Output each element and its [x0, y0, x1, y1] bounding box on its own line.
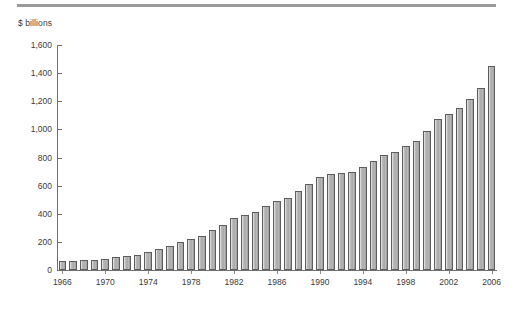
x-axis-tick-label: 1978 — [171, 277, 211, 287]
bar — [391, 152, 399, 270]
bar — [123, 256, 131, 270]
bar — [262, 206, 270, 270]
y-axis-tick-mark — [57, 186, 62, 187]
bar — [316, 177, 324, 270]
y-axis-tick-label: 1,600 — [14, 40, 52, 50]
x-axis-tick-label: 1986 — [257, 277, 297, 287]
y-axis-tick-mark — [57, 45, 62, 46]
bar — [423, 131, 431, 270]
bar — [327, 174, 335, 270]
bar — [273, 201, 281, 270]
bar — [80, 260, 88, 270]
bar — [101, 259, 109, 270]
bar — [252, 212, 260, 270]
bar — [187, 239, 195, 270]
x-axis-tick-label: 1994 — [343, 277, 383, 287]
bar-chart-plot-area: 02004006008001,0001,2001,4001,600 196619… — [0, 0, 513, 310]
bar — [477, 88, 485, 270]
x-axis-tick-label: 1998 — [386, 277, 426, 287]
y-axis-tick-mark — [57, 158, 62, 159]
y-axis-tick-mark — [57, 214, 62, 215]
bar — [241, 215, 249, 270]
bar — [456, 108, 464, 270]
bar — [305, 184, 313, 270]
x-axis-tick-mark — [406, 271, 407, 274]
bar — [402, 146, 410, 270]
x-axis-tick-mark — [191, 271, 192, 274]
bar — [91, 260, 99, 270]
bar — [112, 257, 120, 270]
x-axis-tick-label: 2002 — [429, 277, 469, 287]
bar — [466, 99, 474, 270]
x-axis-tick-mark — [234, 271, 235, 274]
y-axis-tick-label: 800 — [14, 153, 52, 163]
bar — [434, 119, 442, 270]
x-axis-tick-mark — [492, 271, 493, 274]
y-axis-tick-mark — [57, 73, 62, 74]
x-axis-tick-label: 2006 — [472, 277, 512, 287]
y-axis-tick-label: 200 — [14, 237, 52, 247]
bar — [295, 191, 303, 270]
bar — [445, 114, 453, 270]
y-axis-tick-mark — [57, 129, 62, 130]
bar — [166, 246, 174, 270]
bar — [338, 173, 346, 270]
bar — [488, 66, 496, 270]
bar — [209, 230, 217, 270]
bar — [230, 218, 238, 270]
y-axis-tick-label: 600 — [14, 181, 52, 191]
bar — [69, 261, 77, 270]
bar — [359, 167, 367, 270]
x-axis-tick-mark — [320, 271, 321, 274]
bar — [413, 141, 421, 270]
x-axis-tick-mark — [105, 271, 106, 274]
bar — [144, 252, 152, 270]
bar — [177, 242, 185, 270]
x-axis-tick-mark — [363, 271, 364, 274]
y-axis-tick-mark — [57, 101, 62, 102]
y-axis-tick-label: 1,000 — [14, 124, 52, 134]
y-axis-tick-label: 400 — [14, 209, 52, 219]
x-axis-tick-mark — [449, 271, 450, 274]
y-axis-tick-label: 0 — [14, 265, 52, 275]
bar — [155, 249, 163, 270]
x-axis-tick-label: 1970 — [85, 277, 125, 287]
bar — [59, 261, 67, 270]
x-axis-tick-label: 1966 — [42, 277, 82, 287]
x-axis-tick-label: 1982 — [214, 277, 254, 287]
bar — [198, 236, 206, 270]
y-axis-tick-mark — [57, 242, 62, 243]
x-axis-tick-mark — [277, 271, 278, 274]
x-axis-tick-mark — [62, 271, 63, 274]
bar — [380, 155, 388, 270]
bar — [284, 198, 292, 270]
bar — [219, 225, 227, 270]
bar — [134, 255, 142, 270]
x-axis-tick-label: 1974 — [128, 277, 168, 287]
bar — [348, 172, 356, 270]
y-axis-tick-label: 1,400 — [14, 68, 52, 78]
x-axis-tick-mark — [148, 271, 149, 274]
x-axis-tick-label: 1990 — [300, 277, 340, 287]
bar — [370, 161, 378, 270]
chart-figure: $ billions 02004006008001,0001,2001,4001… — [0, 0, 513, 310]
y-axis-tick-label: 1,200 — [14, 96, 52, 106]
